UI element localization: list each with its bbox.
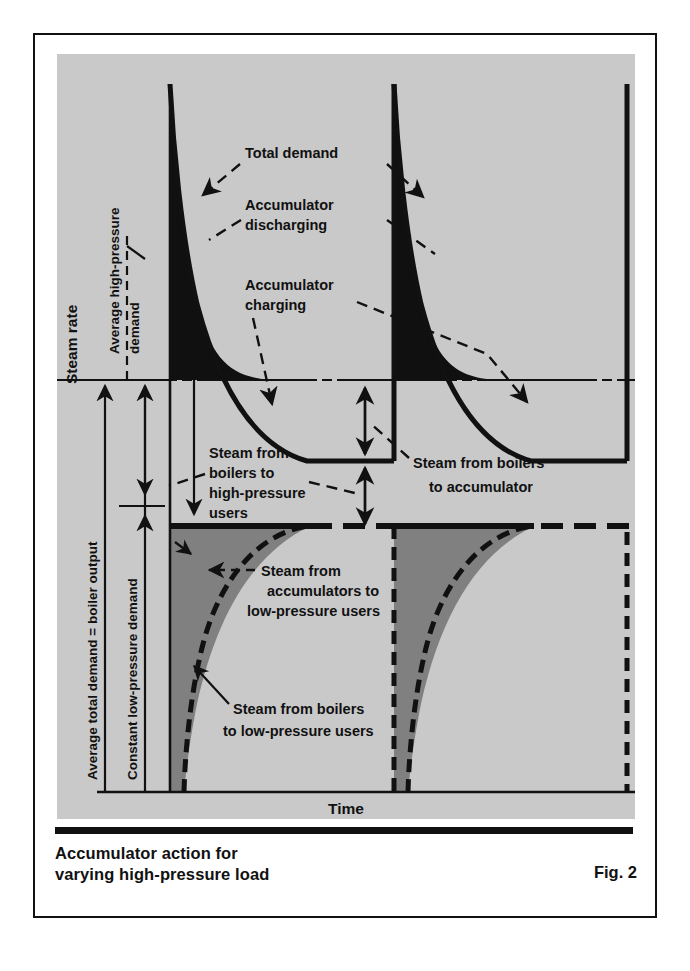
leader-discharging-left: [209, 220, 241, 240]
callout-accumulator-charging-line2: charging: [245, 297, 306, 313]
callout-accumulator-charging-line1: Accumulator: [245, 277, 334, 293]
caption-rule: [55, 827, 633, 834]
bracket-label-avg-hp-demand-line2: demand: [127, 302, 142, 354]
y-axis-label: Steam rate: [63, 304, 80, 384]
caption-line-2: varying high-pressure load: [55, 864, 475, 885]
callout-accumulator-discharging-line1: Accumulator: [245, 197, 334, 213]
callout-boilers-to-hp-line1: Steam from: [209, 445, 289, 461]
callout-boilers-to-hp-group: Steam from boilers to high-pressure user…: [169, 445, 359, 521]
callout-boilers-to-accumulator-line1: Steam from boilers: [413, 455, 544, 471]
total-demand-curve-cycle-2: [394, 84, 627, 461]
caption-line-1: Accumulator action for: [55, 843, 475, 864]
leader-charging-left: [253, 318, 272, 404]
callout-accumulator-discharging-line2: discharging: [245, 217, 327, 233]
figure-caption: Accumulator action for varying high-pres…: [55, 843, 475, 884]
low-pressure-zone: [170, 526, 534, 792]
callout-accumulators-to-lp-line1: Steam from: [261, 563, 341, 579]
callout-accumulator-charging-group: Accumulator charging: [245, 277, 527, 404]
diagram-svg: Total demand Accumulator discharging Acc…: [57, 54, 635, 819]
callout-boilers-to-accumulator-line2: to accumulator: [429, 479, 533, 495]
callout-boilers-to-lp-line2: to low-pressure users: [223, 723, 374, 739]
plot-panel: Total demand Accumulator discharging Acc…: [57, 54, 635, 819]
callout-boilers-to-hp-line2: boilers to: [209, 465, 274, 481]
avg-hp-demand-leader-kink: [127, 246, 145, 259]
figure-frame: Total demand Accumulator discharging Acc…: [33, 33, 657, 918]
callout-accumulators-to-lp-line3: low-pressure users: [247, 603, 380, 619]
accumulator-to-lp-wedge-cycle-2: [394, 526, 534, 792]
callout-total-demand: Total demand: [245, 145, 338, 161]
leader-total-demand-left: [203, 164, 240, 195]
leader-boilers-hp-left: [169, 474, 205, 486]
total-demand-curve-cycle-1: [170, 84, 394, 461]
figure-number: Fig. 2: [594, 863, 637, 882]
bracket-label-constant-lp-demand: Constant low-pressure demand: [125, 578, 140, 780]
callout-boilers-to-hp-line4: users: [209, 505, 248, 521]
x-axis-label: Time: [328, 800, 364, 817]
callout-accumulators-to-lp-line2: accumulators to: [267, 583, 379, 599]
leader-boilers-hp-right: [309, 482, 359, 494]
bracket-label-average-total-demand: Average total demand = boiler output: [85, 541, 100, 780]
callout-total-demand-group: Total demand: [203, 145, 423, 197]
leader-charging-right: [357, 302, 527, 402]
demand-spike-cycle-2: [394, 84, 506, 380]
bracket-label-avg-hp-demand-line1: Average high-pressure: [107, 207, 122, 354]
callout-boilers-to-lp-group: Steam from boilers to low-pressure users: [194, 666, 374, 739]
callout-boilers-to-lp-line1: Steam from boilers: [233, 701, 364, 717]
leader-boilers-accumulator: [369, 422, 409, 458]
callout-boilers-to-hp-line3: high-pressure: [209, 485, 306, 501]
